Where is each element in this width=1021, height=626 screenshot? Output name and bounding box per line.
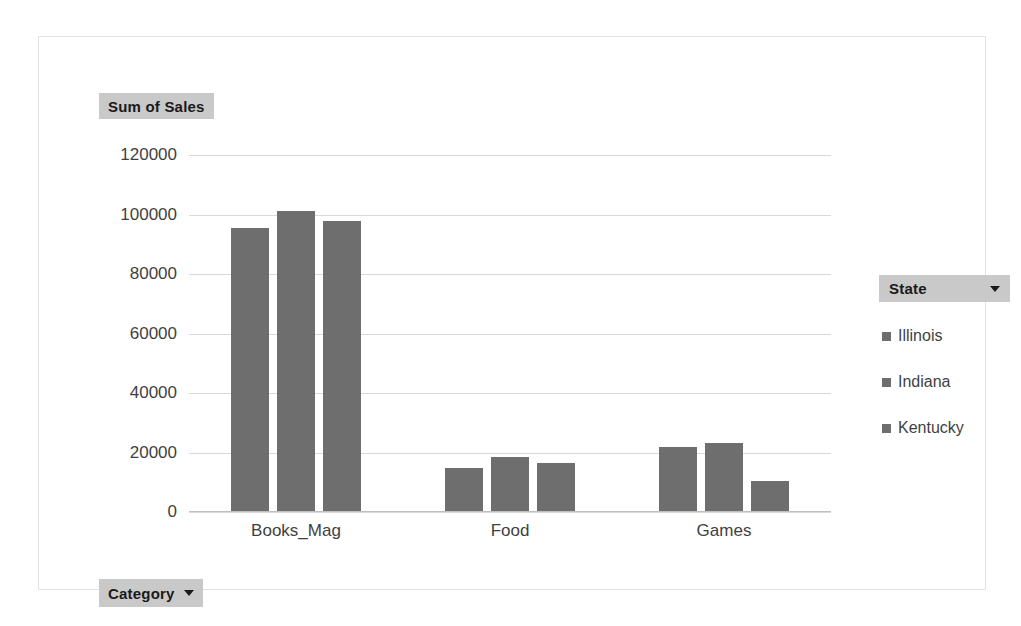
chevron-down-icon [184,590,194,596]
bar-games-indiana[interactable] [705,443,743,511]
legend-field-label: State [889,280,927,297]
category-field-label: Category [108,585,175,602]
x-axis: Books_MagFoodGames [189,521,831,551]
gridline [189,155,831,156]
legend-item[interactable]: Illinois [882,313,1021,359]
y-axis-tick-label: 60000 [57,324,177,344]
legend: IllinoisIndianaKentucky [882,313,1021,451]
bar-books_mag-indiana[interactable] [277,211,315,511]
y-axis-tick-label: 120000 [57,145,177,165]
y-axis-tick-label: 80000 [57,264,177,284]
x-axis-tick-label: Books_Mag [251,521,341,541]
bar-games-kentucky[interactable] [751,481,789,511]
y-axis-tick-label: 20000 [57,443,177,463]
legend-item-label: Kentucky [898,419,964,437]
legend-item[interactable]: Kentucky [882,405,1021,451]
bar-food-indiana[interactable] [491,457,529,511]
legend-field-button[interactable]: State [879,275,1010,302]
bar-food-kentucky[interactable] [537,463,575,511]
gridline [189,512,831,513]
category-field-button[interactable]: Category [99,579,203,607]
bar-books_mag-illinois[interactable] [231,228,269,511]
legend-swatch-icon [882,332,891,341]
y-axis-tick-label: 100000 [57,205,177,225]
x-axis-tick-label: Food [491,521,530,541]
bar-books_mag-kentucky[interactable] [323,221,361,511]
y-axis-tick-label: 40000 [57,383,177,403]
x-axis-tick-label: Games [697,521,752,541]
bar-food-illinois[interactable] [445,468,483,511]
y-axis: 020000400006000080000100000120000 [57,155,177,512]
bar-games-illinois[interactable] [659,447,697,511]
value-field-button[interactable]: Sum of Sales [99,93,214,119]
pivotchart-screenshot: Sum of Sales 020000400006000080000100000… [0,0,1021,626]
chevron-down-icon [990,286,1000,292]
y-axis-tick-label: 0 [57,502,177,522]
legend-item-label: Indiana [898,373,951,391]
chart-frame: Sum of Sales 020000400006000080000100000… [38,36,986,590]
value-field-label: Sum of Sales [108,98,205,115]
legend-swatch-icon [882,378,891,387]
legend-item-label: Illinois [898,327,942,345]
legend-item[interactable]: Indiana [882,359,1021,405]
legend-swatch-icon [882,424,891,433]
plot-area [189,155,831,512]
